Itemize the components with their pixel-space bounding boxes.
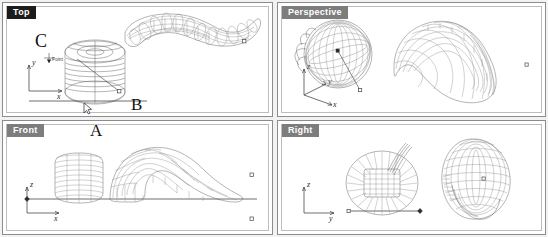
control-point-right-origin	[347, 210, 350, 213]
svg-text:y: y	[31, 58, 36, 67]
viewport-right-canvas[interactable]: z y	[281, 124, 542, 231]
blob-wireframe-front	[110, 147, 242, 202]
cad-viewport-grid: y x	[0, 0, 548, 237]
viewport-perspective[interactable]: z y x	[277, 2, 546, 117]
svg-text:z: z	[29, 180, 34, 189]
origin-marker	[25, 196, 30, 201]
point-tooltip: Point	[52, 57, 63, 62]
blob-wireframe-perspective	[394, 21, 496, 103]
control-point-front-upper	[250, 173, 253, 176]
blob-wireframe-top	[125, 12, 261, 46]
axis-gizmo-front: z x	[25, 180, 59, 223]
viewport-perspective-canvas[interactable]: z y x	[281, 6, 542, 113]
viewport-top-canvas[interactable]: y x	[6, 6, 269, 113]
viewport-perspective-scene: z y x	[282, 7, 545, 116]
annotation-a: A	[90, 121, 102, 141]
svg-text:x: x	[53, 214, 58, 223]
viewport-label-right[interactable]: Right	[282, 124, 319, 137]
control-point-perspective-far	[525, 63, 528, 66]
viewport-label-perspective[interactable]: Perspective	[282, 6, 348, 19]
cylinder-wireframe-front	[55, 153, 103, 203]
svg-text:z: z	[306, 180, 311, 189]
control-point-b	[118, 90, 121, 93]
control-point-perspective	[359, 89, 362, 92]
svg-text:x: x	[332, 100, 337, 109]
cylinder-wireframe-perspective	[295, 15, 377, 92]
annotation-b: B	[131, 95, 142, 115]
annotation-c: C	[35, 31, 47, 52]
control-point-front-lower	[250, 217, 253, 220]
viewport-right-scene: z y	[282, 125, 545, 234]
viewport-front[interactable]: z x	[2, 120, 273, 235]
cylinder-wireframe-right	[346, 143, 418, 215]
origin-marker-right	[418, 208, 423, 213]
perspective-leader-line	[338, 51, 360, 90]
cylinder-leader-line	[77, 59, 119, 91]
selected-control-point	[336, 49, 339, 52]
viewport-front-scene: z x	[7, 125, 272, 234]
cursor-arrow-a	[84, 103, 92, 114]
svg-text:y: y	[328, 214, 333, 223]
axis-gizmo-right: z y	[302, 180, 334, 223]
control-point-blob-top	[243, 40, 246, 43]
blob-wireframe-right	[442, 139, 510, 219]
viewport-front-canvas[interactable]: z x	[6, 124, 269, 231]
svg-text:x: x	[56, 92, 61, 101]
viewport-label-top[interactable]: Top	[7, 6, 36, 19]
viewport-right[interactable]: z y	[277, 120, 546, 235]
viewport-label-front[interactable]: Front	[7, 124, 44, 137]
control-point-right-blob	[482, 177, 485, 180]
viewport-top[interactable]: y x	[2, 2, 273, 117]
